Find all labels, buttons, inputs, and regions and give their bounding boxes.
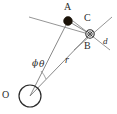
label-distance-d: d <box>103 36 108 46</box>
label-point-a: A <box>64 2 71 12</box>
label-point-b: B <box>84 41 91 51</box>
marker-point-bc <box>86 30 94 38</box>
diagram-canvas <box>0 0 117 114</box>
geometry-diagram: A C B d r ϕ θ O <box>0 0 117 114</box>
marker-point-a <box>64 17 73 26</box>
label-angle-phi: ϕ <box>32 58 38 68</box>
angle-arc-theta <box>41 71 46 79</box>
tangent-line-through-a <box>29 17 92 35</box>
label-radius-r: r <box>65 55 69 65</box>
label-angle-theta: θ <box>39 59 44 69</box>
label-point-o: O <box>2 90 9 100</box>
label-point-c: C <box>84 13 91 23</box>
